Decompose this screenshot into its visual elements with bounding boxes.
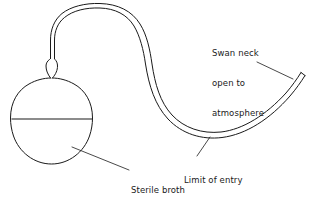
flask-neck-right-wall	[53, 59, 58, 79]
flask-bulb	[11, 78, 93, 164]
leader-line-limit-entry	[197, 137, 210, 156]
label-limit-entry-line1: Limit of entry	[184, 175, 270, 185]
tube-open-end	[301, 73, 305, 76]
label-swan-neck: Swan neck open to atmosphere	[212, 28, 264, 138]
label-swan-neck-line1: Swan neck	[212, 48, 264, 58]
label-swan-neck-line2: open to	[212, 78, 264, 88]
label-sterile-broth-line1: Sterile broth	[131, 185, 185, 195]
swan-neck-flask-figure: Swan neck open to atmosphere Sterile bro…	[0, 0, 316, 197]
label-sterile-broth: Sterile broth	[131, 165, 185, 197]
label-limit-entry: Limit of entry by micro-organisms	[184, 155, 270, 197]
label-swan-neck-line3: atmosphere	[212, 108, 264, 118]
figure-caption: Experiment	[30, 189, 83, 197]
flask-neck-left-wall	[46, 59, 51, 79]
leader-line-sterile-broth	[72, 147, 129, 170]
